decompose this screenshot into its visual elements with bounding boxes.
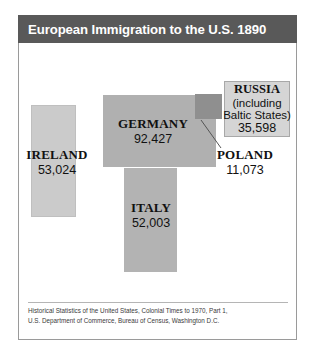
region-value-germany: 92,427 — [105, 132, 201, 146]
source-line-2: U.S. Department of Commerce, Bureau of C… — [28, 316, 286, 326]
region-value-italy: 52,003 — [115, 216, 187, 230]
infographic-root: European Immigration to the U.S. 1890 IR… — [0, 0, 314, 358]
region-label-germany: GERMANY 92,427 — [105, 117, 201, 146]
region-name-germany: GERMANY — [105, 117, 201, 132]
region-subtitle-russia: (including — [215, 97, 299, 110]
region-label-russia: RUSSIA (including Baltic States) 35,598 — [215, 83, 299, 136]
footer-divider — [28, 302, 288, 303]
region-value-poland: 11,073 — [203, 163, 287, 177]
source-line-1: Historical Statistics of the United Stat… — [28, 306, 286, 316]
region-value-russia: 35,598 — [215, 122, 299, 136]
source-citation: Historical Statistics of the United Stat… — [28, 306, 286, 326]
region-name-ireland: IRELAND — [13, 148, 101, 163]
region-name-italy: ITALY — [115, 201, 187, 216]
map-canvas: IRELAND 53,024 GERMANY 92,427 ITALY 52,0… — [19, 44, 296, 295]
region-name-poland: POLAND — [203, 148, 287, 163]
region-label-italy: ITALY 52,003 — [115, 201, 187, 230]
region-value-ireland: 53,024 — [13, 163, 101, 177]
region-name-russia: RUSSIA — [215, 83, 299, 97]
region-label-ireland: IRELAND 53,024 — [13, 148, 101, 177]
title-bar: European Immigration to the U.S. 1890 — [18, 15, 297, 43]
region-label-poland: POLAND 11,073 — [203, 148, 287, 177]
page-title: European Immigration to the U.S. 1890 — [18, 22, 266, 37]
